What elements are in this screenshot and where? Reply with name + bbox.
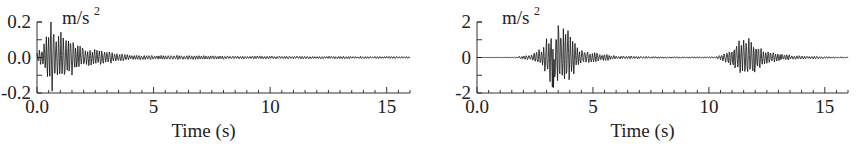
y-tick-label: -0.2: [1, 82, 31, 103]
x-tick-label: 5: [588, 96, 598, 117]
y-unit-label: m/s: [62, 7, 89, 28]
acceleration-trace: [477, 26, 848, 88]
y-tick-label: 0: [462, 47, 472, 68]
y-tick-label: 2: [462, 11, 472, 32]
y-unit-label: m/s: [502, 7, 529, 28]
seismogram-figure: 0.051015-0.20.00.2m/s2Time (s)0.051015-2…: [0, 0, 860, 153]
chart-panel-2: 0.051015-202m/s2Time (s): [455, 4, 848, 142]
x-axis-title: Time (s): [610, 120, 674, 142]
x-tick-label: 15: [377, 96, 396, 117]
acceleration-trace: [37, 22, 410, 91]
x-tick-label: 10: [699, 96, 718, 117]
x-tick-label: 10: [261, 96, 280, 117]
y-unit-superscript: 2: [534, 4, 540, 18]
x-axis-title: Time (s): [171, 120, 235, 142]
chart-panel-1: 0.051015-0.20.00.2m/s2Time (s): [1, 4, 410, 142]
y-unit-superscript: 2: [94, 4, 100, 18]
y-tick-label: -2: [455, 82, 471, 103]
x-tick-label: 15: [815, 96, 834, 117]
y-tick-label: 0.2: [7, 11, 31, 32]
y-tick-label: 0.0: [7, 47, 31, 68]
x-tick-label: 5: [149, 96, 159, 117]
